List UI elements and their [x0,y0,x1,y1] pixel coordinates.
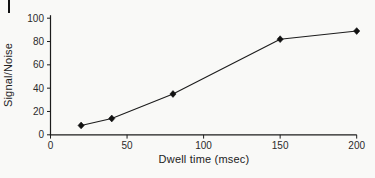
x-tick-label: 200 [348,140,365,151]
data-point-marker [109,115,115,122]
data-line [81,31,357,125]
scanned-figure-page: 020406080100050100150200 Signal/Noise Dw… [0,0,375,178]
data-point-marker [78,122,84,129]
data-point-marker [277,36,283,43]
y-axis-title: Signal/Noise [2,15,16,135]
chart-svg: 020406080100050100150200 [0,0,375,178]
data-point-marker [354,28,360,35]
y-tick-label: 80 [33,36,45,47]
y-tick-label: 60 [33,59,45,70]
data-point-marker [170,91,176,98]
x-tick-label: 150 [272,140,289,151]
x-tick-label: 100 [195,140,212,151]
y-tick-label: 20 [33,106,45,117]
x-tick-label: 0 [48,140,54,151]
y-tick-label: 100 [27,13,44,24]
y-tick-label: 0 [38,129,44,140]
x-axis-title: Dwell time (msec) [51,153,357,165]
y-tick-label: 40 [33,83,45,94]
x-tick-label: 50 [121,140,133,151]
